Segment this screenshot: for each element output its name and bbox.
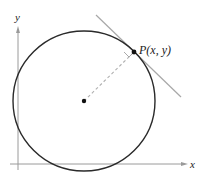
x-axis-label: x <box>189 158 195 170</box>
x-axis <box>10 162 188 166</box>
y-axis <box>16 26 20 170</box>
y-axis-arrow-icon <box>16 26 20 33</box>
point-p <box>132 50 137 55</box>
radius-dashed-line <box>84 52 134 101</box>
circle-tangent-diagram: y x P(x, y) <box>0 0 199 181</box>
x-axis-arrow-icon <box>181 162 188 166</box>
point-p-label: P(x, y) <box>138 43 171 57</box>
y-axis-label: y <box>14 11 20 23</box>
center-point <box>82 99 86 103</box>
